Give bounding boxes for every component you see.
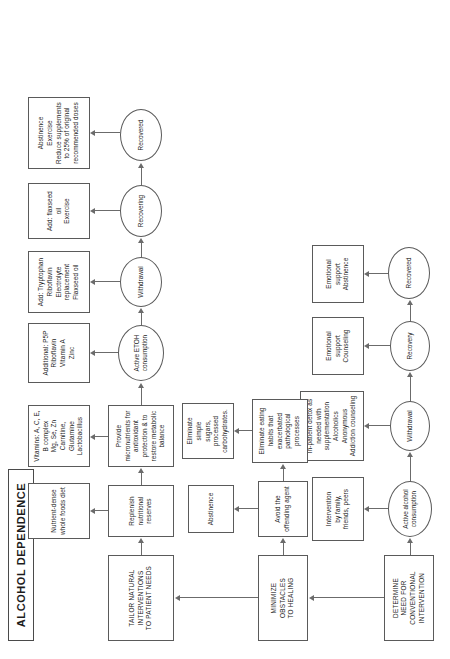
edge-recovered-to-protocol bbox=[95, 132, 120, 133]
edge-recovered-to-abstinence-support bbox=[369, 273, 388, 274]
stage-minimize-obstacles[interactable]: MINIMIZE OBSTACLES TO HEALING bbox=[258, 555, 308, 641]
arrow-recovering-to-recovered bbox=[138, 163, 144, 168]
state-withdrawal-natural[interactable]: Withdrawal bbox=[120, 257, 162, 307]
edge-replenish-to-micronutrients bbox=[141, 472, 142, 485]
edge-tailor-to-replenish bbox=[141, 542, 142, 555]
arrow-recovering-to-protocol bbox=[90, 208, 95, 214]
edge-eliminate-habits-to-simple-sugars bbox=[239, 430, 252, 431]
arrow-micronutrients-to-vitamins bbox=[90, 434, 95, 440]
edge-active-alcohol-to-intervention bbox=[369, 508, 388, 509]
edge-withdrawal-to-protocol bbox=[95, 281, 120, 282]
state-active-etoh-consumption[interactable]: Active ETOH consumption bbox=[118, 325, 164, 381]
state-active-alcohol-consumption[interactable]: Active alcohol consumption bbox=[388, 481, 432, 537]
abstinence-box[interactable]: Abstinence bbox=[188, 485, 234, 533]
arrow-withdrawal-to-inpatient-detox bbox=[364, 423, 369, 429]
emotional-support-abstinence-box[interactable]: Emotional support Abstinence bbox=[312, 245, 364, 303]
arrow-replenish-to-micronutrients bbox=[138, 468, 144, 473]
arrow-avoid-agent-to-eliminate-habits bbox=[280, 464, 286, 469]
stage-determine-need[interactable]: DETERMINE NEED FOR CONVENTIONAL INTERVEN… bbox=[384, 555, 434, 641]
provide-micronutrients-box[interactable]: Provide micronutrients for antioxidant p… bbox=[108, 405, 174, 467]
edge-avoid-agent-to-eliminate-habits bbox=[283, 468, 284, 481]
arrow-active-etoh-to-withdrawal bbox=[138, 308, 144, 313]
protocol-recovering-box[interactable]: Add: flaxseed oil Exercise bbox=[28, 183, 90, 239]
arrow-micronutrients-to-active-etoh bbox=[138, 383, 144, 388]
edge-determine-to-minimize bbox=[314, 597, 384, 598]
arrow-recovery-to-recovered bbox=[407, 300, 413, 305]
protocol-active-etoh-box[interactable]: Additional: P5P Riboflavin Vitamin A Zin… bbox=[28, 323, 90, 383]
arrow-recovery-to-counseling bbox=[364, 343, 369, 349]
edge-active-etoh-to-protocol bbox=[95, 352, 118, 353]
edge-minimize-to-avoid-agent bbox=[283, 542, 284, 555]
intervention-by-family[interactable]: Intervention by family, friends, peers bbox=[312, 477, 364, 541]
arrow-replenish-to-nutrient-dense bbox=[90, 508, 95, 514]
edge-avoid-agent-to-abstinence bbox=[239, 508, 258, 509]
arrow-active-alcohol-to-intervention bbox=[364, 506, 369, 512]
edge-withdrawal-to-inpatient-detox bbox=[369, 425, 390, 426]
arrow-withdrawal-to-recovering bbox=[138, 238, 144, 243]
vitamins-list-box[interactable]: Vitamins: A, C, E, B complex Mg, Se, Zn … bbox=[28, 405, 90, 467]
arrow-withdrawal-to-recovery bbox=[407, 372, 413, 377]
nutrient-dense-diet-box[interactable]: Nutrient-dense whole foods diet bbox=[28, 483, 90, 539]
protocol-recovered-box[interactable]: Abstinence Exercise Reduce supplements t… bbox=[28, 97, 90, 169]
edge-recovering-to-recovered bbox=[141, 167, 142, 185]
state-recovered-conventional[interactable]: Recovered bbox=[388, 247, 430, 299]
arrow-active-etoh-to-protocol bbox=[90, 350, 95, 356]
arrow-withdrawal-to-protocol bbox=[90, 279, 95, 285]
state-withdrawal-conventional[interactable]: Withdrawal bbox=[390, 401, 430, 451]
state-recovered-natural[interactable]: Recovered bbox=[120, 109, 162, 161]
edge-recovering-to-protocol bbox=[95, 210, 120, 211]
stage-tailor-natural[interactable]: TAILOR NATURAL INTERVENTIONS TO PATIENT … bbox=[108, 555, 174, 641]
edge-withdrawal-to-recovering bbox=[141, 243, 142, 257]
arrow-minimize-to-tailor bbox=[175, 595, 180, 601]
arrow-active-alcohol-to-withdrawal bbox=[407, 452, 413, 457]
edge-determine-to-active-alcohol bbox=[410, 542, 411, 555]
edge-recovery-to-counseling bbox=[369, 345, 390, 346]
emotional-support-counseling-box[interactable]: Emotional support Counseling bbox=[312, 317, 364, 375]
eliminate-simple-sugars-box[interactable]: Eliminate simple sugars, processed carbo… bbox=[182, 403, 234, 459]
eliminate-eating-habits-box[interactable]: Eliminate eating habits that exacerbated… bbox=[252, 399, 308, 463]
edge-replenish-to-nutrient-dense bbox=[95, 510, 108, 511]
arrow-recovered-to-abstinence-support bbox=[364, 271, 369, 277]
edge-active-etoh-to-withdrawal bbox=[141, 312, 142, 325]
inpatient-detox-box[interactable]: In-patient detox as needed with suppleme… bbox=[300, 391, 364, 461]
arrow-minimize-to-avoid-agent bbox=[280, 538, 286, 543]
state-recovering[interactable]: Recovering bbox=[120, 185, 162, 237]
replenish-reserves-box[interactable]: Replenish nutritional reserves bbox=[108, 485, 174, 537]
arrow-determine-to-minimize bbox=[309, 595, 314, 601]
edge-micronutrients-to-active-etoh bbox=[141, 387, 142, 405]
edge-minimize-to-tailor bbox=[180, 597, 258, 598]
diagram-rotator: ALCOHOL DEPENDENCE DETERMINE NEED FOR CO… bbox=[0, 0, 450, 659]
arrow-determine-to-active-alcohol bbox=[407, 538, 413, 543]
arrow-avoid-agent-to-abstinence bbox=[234, 506, 239, 512]
state-recovery[interactable]: Recovery bbox=[390, 321, 430, 371]
protocol-withdrawal-box[interactable]: Add: Tryptophan Riboflavin Electrolyte r… bbox=[28, 251, 90, 313]
arrow-recovered-to-protocol bbox=[90, 130, 95, 136]
avoid-offending-agent-box[interactable]: Avoid the offending agent bbox=[258, 481, 308, 537]
arrow-eliminate-habits-to-simple-sugars bbox=[234, 428, 239, 434]
flowchart-canvas: ALCOHOL DEPENDENCE DETERMINE NEED FOR CO… bbox=[0, 0, 450, 659]
arrow-tailor-to-replenish bbox=[138, 538, 144, 543]
edge-withdrawal-to-recovery bbox=[410, 376, 411, 401]
edge-active-alcohol-to-withdrawal bbox=[410, 456, 411, 481]
edge-micronutrients-to-vitamins bbox=[95, 436, 108, 437]
edge-recovery-to-recovered bbox=[410, 304, 411, 321]
